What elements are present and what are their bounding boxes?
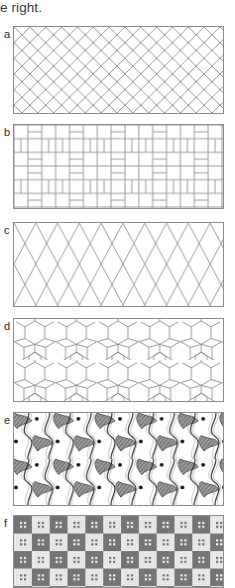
panel-e-escher-organic-tessellation (13, 412, 224, 506)
body-text: e right. (0, 0, 150, 15)
escher-organic-pattern (14, 413, 223, 505)
panel-d-islamic-star-tiling (13, 318, 224, 402)
herringbone-pattern (14, 27, 223, 113)
figure-page: e right. a (0, 0, 235, 588)
islamic-star-pattern (14, 319, 223, 401)
panel-c-diamond-lattice-tiling (13, 222, 224, 307)
panel-a-herringbone-brick-tiling (13, 26, 224, 114)
diamond-lattice-pattern (14, 223, 223, 306)
interlocking-rectangle-pattern (14, 125, 223, 208)
panel-b-interlocking-rectangle-tiling (13, 124, 224, 209)
checkerboard-quilt-pattern (14, 516, 223, 587)
panel-f-checkerboard-quilt-tiling (13, 515, 224, 588)
